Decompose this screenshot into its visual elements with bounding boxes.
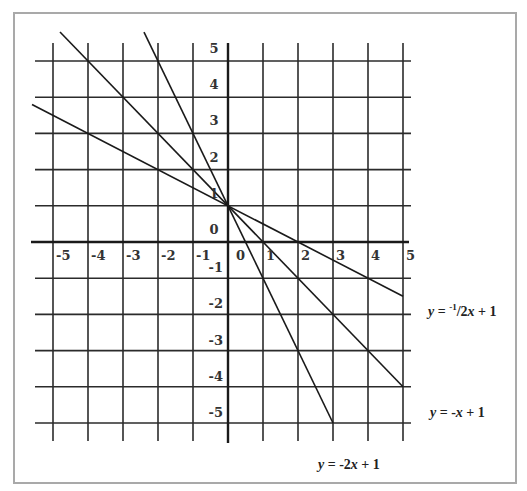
x-tick-label: 0 — [236, 248, 245, 263]
y-tick-label: 0 — [209, 222, 218, 237]
y-tick-label: -4 — [209, 369, 223, 384]
y-tick-label: -3 — [209, 333, 223, 348]
function-line-2 — [144, 32, 333, 423]
y-tick-label: -5 — [209, 405, 223, 420]
y-tick-label: 4 — [209, 77, 218, 92]
y-tick-label: -1 — [209, 260, 223, 275]
y-tick-label: 2 — [209, 150, 218, 165]
y-tick-label: 5 — [209, 41, 218, 56]
y-tick-label: 1 — [209, 186, 218, 201]
x-tick-label: -3 — [126, 248, 140, 263]
y-tick-label: 3 — [209, 113, 218, 128]
x-tick-label: 5 — [406, 248, 415, 263]
x-tick-label: 2 — [301, 248, 310, 263]
label-eq-neg-x: y = -x + 1 — [428, 405, 485, 420]
x-tick-label: -4 — [91, 248, 105, 263]
label-eq-half: y = -1/2x + 1 — [426, 302, 497, 319]
y-tick-label: -2 — [209, 296, 223, 311]
x-tick-label: -5 — [56, 248, 70, 263]
x-tick-label: 3 — [336, 248, 345, 263]
function-line-1 — [60, 32, 403, 387]
x-tick-label: 1 — [266, 248, 275, 263]
coordinate-plane: -5-4-3-2-1012345543210-1-2-3-4-5 y = -1/… — [0, 0, 527, 491]
x-tick-label: 4 — [371, 248, 380, 263]
x-tick-label: -2 — [161, 248, 175, 263]
label-eq-neg-2x: y = -2x + 1 — [316, 457, 380, 472]
